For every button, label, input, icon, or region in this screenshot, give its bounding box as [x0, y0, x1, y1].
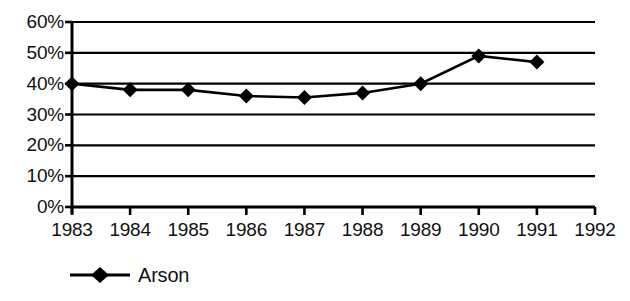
data-point-marker: [529, 55, 544, 70]
data-point-marker: [65, 76, 80, 91]
legend-entry-label: Arson: [138, 265, 189, 285]
plot-area: [0, 0, 630, 301]
data-point-marker: [239, 89, 254, 104]
data-point-marker: [297, 90, 312, 105]
x-axis-labels: 1983198419851986198719881989199019911992: [0, 218, 630, 248]
chart-legend: Arson: [68, 258, 189, 292]
data-point-marker: [355, 85, 370, 100]
data-series-layer: [65, 48, 545, 105]
data-point-marker: [413, 76, 428, 91]
legend-marker-diamond-icon: [68, 265, 132, 285]
gridlines: [72, 22, 595, 207]
x-axis-ticks: [65, 22, 595, 215]
data-point-marker: [471, 48, 486, 63]
line-chart: 60%50%40%30%20%10%0% 1983198419851986198…: [0, 0, 630, 301]
x-axis-tick-label: 1992: [560, 218, 630, 242]
